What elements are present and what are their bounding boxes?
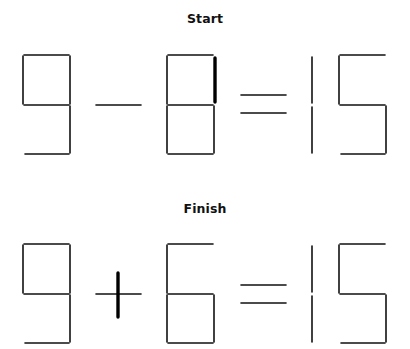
matchstick-puzzle-figure: Start Finish bbox=[0, 0, 410, 349]
finish-equation-matchsticks bbox=[0, 0, 410, 349]
